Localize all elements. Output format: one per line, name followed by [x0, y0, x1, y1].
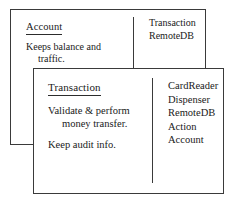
transaction-responsibility-list: Validate & perform money transfer. Keep …	[48, 104, 150, 152]
transaction-left-column: Transaction Validate & perform money tra…	[48, 77, 150, 158]
transaction-responsibility-item: Validate & perform money transfer.	[48, 104, 150, 131]
account-collaborator-item: RemoteDB	[149, 29, 207, 42]
transaction-collaborator-item: CardReader	[168, 79, 226, 93]
card-column-divider	[152, 78, 153, 183]
card-column-divider	[133, 17, 134, 68]
account-responsibility-list: Keeps balance and traffic.	[26, 41, 130, 66]
transaction-collaborator-item: RemoteDB	[168, 106, 226, 120]
transaction-collaborator-column: CardReader Dispenser RemoteDB Action Acc…	[168, 79, 226, 147]
crc-card-transaction[interactable]: Transaction Validate & perform money tra…	[33, 68, 224, 194]
account-class-name: Account	[26, 20, 62, 35]
account-left-column: Account Keeps balance and traffic.	[26, 16, 130, 66]
transaction-collaborator-item: Account	[168, 133, 226, 147]
account-collaborator-item: Transaction	[149, 16, 207, 29]
account-collaborator-list: Transaction RemoteDB	[149, 16, 207, 42]
crc-card-diagram: Account Keeps balance and traffic. Trans…	[0, 0, 240, 204]
transaction-collaborator-item: Dispenser	[168, 93, 226, 107]
account-responsibility-item: Keeps balance and traffic.	[26, 41, 130, 66]
transaction-collaborator-list: CardReader Dispenser RemoteDB Action Acc…	[168, 79, 226, 147]
transaction-responsibility-item: Keep audit info.	[48, 138, 150, 152]
transaction-class-name: Transaction	[48, 81, 101, 96]
transaction-collaborator-item: Action	[168, 120, 226, 134]
account-collaborator-column: Transaction RemoteDB	[149, 16, 207, 42]
